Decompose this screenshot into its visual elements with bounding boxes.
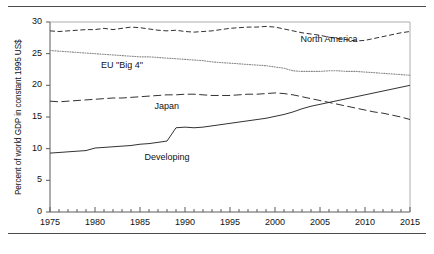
x-tick-label: 1990 xyxy=(165,217,205,227)
series-label: Developing xyxy=(145,152,190,162)
plot-canvas xyxy=(0,0,434,254)
chart-figure: Percent of world GDP in constant 1995 US… xyxy=(0,0,434,254)
plot-frame xyxy=(50,22,410,212)
x-tick-label: 1980 xyxy=(75,217,115,227)
y-tick-label: 30 xyxy=(22,16,42,26)
y-tick-label: 10 xyxy=(22,143,42,153)
series-label: North America xyxy=(301,34,358,44)
x-tick-label: 2000 xyxy=(255,217,295,227)
axes-group xyxy=(46,22,410,212)
x-tick-label: 1985 xyxy=(120,217,160,227)
series-group xyxy=(50,26,410,153)
y-tick-label: 0 xyxy=(22,206,42,216)
y-tick-label: 5 xyxy=(22,174,42,184)
x-tick-label: 2015 xyxy=(390,217,430,227)
x-tick-label: 1995 xyxy=(210,217,250,227)
series-label: EU "Big 4" xyxy=(101,60,143,70)
x-tick-label: 2010 xyxy=(345,217,385,227)
y-tick-label: 25 xyxy=(22,48,42,58)
x-tick-label: 1975 xyxy=(30,217,70,227)
y-tick-label: 20 xyxy=(22,79,42,89)
series-label: Japan xyxy=(155,101,180,111)
axis-lines xyxy=(50,22,410,212)
x-tick-label: 2005 xyxy=(300,217,340,227)
y-tick-label: 15 xyxy=(22,111,42,121)
